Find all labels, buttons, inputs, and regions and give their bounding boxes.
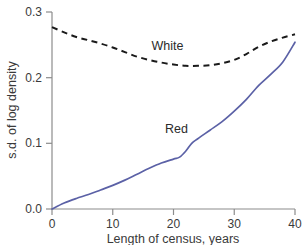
- y-tick-label-1: 0.1: [25, 136, 42, 150]
- y-axis-ticks: 0.3 0.2 0.1 0.0: [25, 5, 52, 216]
- y-axis-title: s.d. of log density: [5, 61, 19, 159]
- chart-figure: 0.3 0.2 0.1 0.0 0 10 20 30 40 Length of …: [0, 0, 306, 245]
- line-chart: 0.3 0.2 0.1 0.0 0 10 20 30 40 Length of …: [0, 0, 306, 245]
- y-tick-label-3: 0.3: [25, 5, 42, 19]
- x-tick-label-2: 20: [167, 217, 181, 231]
- x-tick-label-4: 40: [288, 217, 302, 231]
- x-tick-label-3: 30: [228, 217, 242, 231]
- series-label-red: Red: [165, 122, 188, 136]
- x-tick-label-0: 0: [49, 217, 56, 231]
- x-tick-label-1: 10: [106, 217, 120, 231]
- y-tick-label-2: 0.2: [25, 71, 42, 85]
- x-axis-title: Length of census, years: [107, 232, 240, 245]
- x-axis-ticks: 0 10 20 30 40: [49, 209, 302, 231]
- y-tick-label-0: 0.0: [25, 202, 42, 216]
- series-label-white: White: [151, 39, 183, 53]
